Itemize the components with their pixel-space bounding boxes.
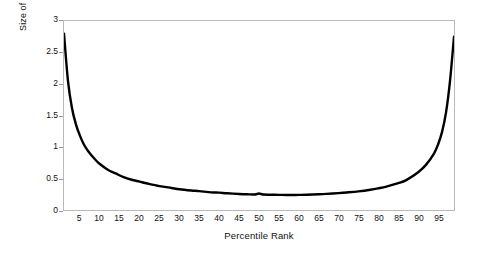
x-tick-label: 40	[209, 213, 229, 223]
data-series-line	[64, 34, 454, 195]
x-tick-label: 30	[169, 213, 189, 223]
y-axis-title-container: Size of Percentile Rank Unit on T Score …	[22, 22, 36, 218]
y-axis-title: Size of Percentile Rank Unit on T Score …	[18, 0, 32, 35]
x-tick-label: 35	[189, 213, 209, 223]
x-tick-label: 20	[129, 213, 149, 223]
x-tick-label: 50	[249, 213, 269, 223]
x-tick-label: 75	[349, 213, 369, 223]
x-tick-label: 15	[109, 213, 129, 223]
y-tick-label: 2.5	[36, 47, 58, 56]
x-tick-label: 55	[269, 213, 289, 223]
x-tick-label: 95	[429, 213, 449, 223]
x-tick-label: 10	[89, 213, 109, 223]
y-tick-label: 0	[36, 206, 58, 215]
x-tick-label: 45	[229, 213, 249, 223]
x-tick-label: 5	[69, 213, 89, 223]
y-tick-mark	[59, 211, 63, 212]
x-tick-label: 80	[369, 213, 389, 223]
x-tick-label: 25	[149, 213, 169, 223]
x-axis-title: Percentile Rank	[63, 230, 455, 241]
curve-svg	[64, 21, 454, 210]
plot-area	[63, 20, 455, 211]
x-tick-label: 90	[409, 213, 429, 223]
x-tick-label: 65	[309, 213, 329, 223]
y-tick-label: 2	[36, 79, 58, 88]
y-tick-label: 1.5	[36, 111, 58, 120]
y-tick-label: 1	[36, 142, 58, 151]
y-tick-label: 3	[36, 15, 58, 24]
x-tick-label: 60	[289, 213, 309, 223]
x-tick-label: 70	[329, 213, 349, 223]
x-tick-label: 85	[389, 213, 409, 223]
y-tick-label: 0.5	[36, 174, 58, 183]
chart-figure: Size of Percentile Rank Unit on T Score …	[0, 0, 477, 268]
